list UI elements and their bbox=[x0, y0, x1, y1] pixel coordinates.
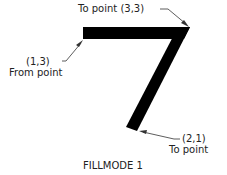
label-to-bottom-coord: (2,1) bbox=[182, 133, 206, 144]
label-to-point-top: To point (3,3) bbox=[77, 3, 144, 14]
trace-diagonal bbox=[126, 27, 190, 131]
caption: FILLMODE 1 bbox=[83, 160, 143, 171]
arrowhead-icon bbox=[139, 130, 147, 134]
leader-to-point-bottom bbox=[143, 132, 180, 139]
arrowhead-icon bbox=[76, 40, 83, 47]
label-from-coord: (1,3) bbox=[26, 56, 50, 67]
leader-to-point-top bbox=[160, 9, 186, 24]
fillmode-diagram: To point (3,3) (1,3) From point (2,1) To… bbox=[0, 0, 227, 175]
label-from-text: From point bbox=[9, 67, 63, 78]
label-to-bottom-text: To point bbox=[168, 144, 208, 155]
